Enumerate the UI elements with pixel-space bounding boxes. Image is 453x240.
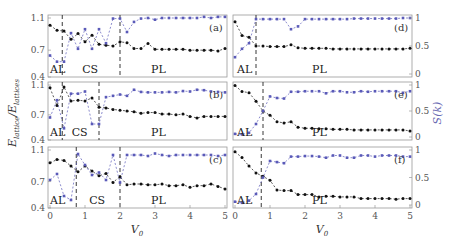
structure-factor-marker <box>168 91 171 94</box>
energy-ratio-marker <box>339 47 342 50</box>
energy-ratio-marker <box>283 189 286 192</box>
structure-factor-marker <box>367 154 370 157</box>
energy-ratio-marker <box>297 46 300 49</box>
energy-ratio-marker <box>283 45 286 48</box>
energy-ratio-marker <box>63 159 66 162</box>
structure-factor-marker <box>70 199 73 202</box>
energy-ratio-marker <box>283 121 286 124</box>
region-label-pl: PL <box>151 63 166 76</box>
energy-ratio-marker <box>161 113 164 116</box>
structure-factor-marker <box>297 25 300 28</box>
energy-ratio-marker <box>388 128 391 131</box>
panel-label: (a) <box>209 22 223 33</box>
energy-ratio-marker <box>276 189 279 192</box>
y-tick-label: 1.1 <box>31 145 45 155</box>
structure-factor-marker <box>84 28 87 31</box>
energy-ratio-marker <box>248 91 251 94</box>
energy-ratio-marker <box>346 47 349 50</box>
structure-factor-marker <box>140 91 143 94</box>
x-tick-label: 0 <box>232 211 238 221</box>
structure-factor-marker <box>234 133 237 136</box>
structure-factor-marker <box>140 17 143 20</box>
left-y-axis-label: Elattice/Elattices <box>6 79 21 148</box>
structure-factor-marker <box>241 48 244 51</box>
energy-ratio-marker <box>332 128 335 131</box>
structure-factor-marker <box>189 17 192 20</box>
structure-factor-marker <box>196 17 199 20</box>
structure-factor-marker <box>374 90 377 93</box>
structure-factor-marker <box>283 97 286 100</box>
structure-factor-marker <box>119 181 122 184</box>
structure-factor-marker <box>311 155 314 158</box>
energy-ratio-marker <box>234 20 237 23</box>
energy-ratio-marker <box>105 172 108 175</box>
energy-ratio-marker <box>353 128 356 131</box>
structure-factor-marker <box>381 90 384 93</box>
energy-ratio-marker <box>210 49 213 52</box>
structure-factor-marker <box>367 90 370 93</box>
region-label-pl: PL <box>312 126 327 139</box>
energy-ratio-marker <box>133 47 136 50</box>
energy-ratio-marker <box>182 113 185 116</box>
structure-factor-marker <box>402 17 405 20</box>
energy-ratio-marker <box>311 47 314 50</box>
energy-ratio-marker <box>304 47 307 50</box>
structure-factor-marker <box>168 155 171 158</box>
energy-ratio-marker <box>353 47 356 50</box>
structure-factor-marker <box>147 91 150 94</box>
panel-label: (b) <box>209 89 223 100</box>
energy-ratio-marker <box>353 195 356 198</box>
energy-ratio-marker <box>304 193 307 196</box>
right-y-tick-label: 0 <box>415 69 421 79</box>
x-tick-label: 4 <box>372 211 378 221</box>
structure-factor-marker <box>297 155 300 158</box>
structure-factor-marker <box>346 18 349 21</box>
y-tick-label: 0.4 <box>31 135 46 145</box>
energy-ratio-marker <box>147 111 150 114</box>
structure-factor-marker <box>98 28 101 31</box>
region-label-cs: CS <box>82 63 98 76</box>
energy-ratio-marker <box>175 184 178 187</box>
energy-ratio-marker <box>290 189 293 192</box>
energy-ratio-marker <box>262 45 265 48</box>
structure-factor-marker <box>234 200 237 203</box>
structure-factor-marker <box>388 154 391 157</box>
structure-factor-marker <box>133 21 136 24</box>
energy-ratio-marker <box>402 197 405 200</box>
structure-factor-marker <box>304 90 307 93</box>
energy-ratio-marker <box>49 161 52 164</box>
energy-ratio-marker <box>290 120 293 123</box>
energy-ratio-marker <box>77 170 80 173</box>
energy-ratio-marker <box>255 45 258 48</box>
energy-ratio-marker <box>395 128 398 131</box>
x-axis-label-left: V0 <box>131 223 144 238</box>
structure-factor-marker <box>119 93 122 96</box>
energy-ratio-marker <box>234 150 237 153</box>
structure-factor-marker <box>161 154 164 157</box>
structure-factor-marker <box>133 154 136 157</box>
panel-label: (e) <box>394 89 408 100</box>
structure-factor-marker <box>290 155 293 158</box>
energy-ratio-marker <box>175 113 178 116</box>
structure-factor-marker <box>70 92 73 95</box>
energy-ratio-marker <box>325 47 328 50</box>
energy-ratio-marker <box>297 126 300 129</box>
panel-d: (d)ALPL10.50 <box>233 13 430 79</box>
energy-ratio-marker <box>98 43 101 46</box>
energy-ratio-marker <box>255 171 258 174</box>
energy-ratio-marker <box>168 184 171 187</box>
panel-f: (f)ALPL10.50012345 <box>232 145 429 221</box>
region-label-al: AL <box>236 63 253 76</box>
structure-factor-marker <box>203 154 206 157</box>
structure-factor-marker <box>304 18 307 21</box>
energy-ratio-marker <box>297 193 300 196</box>
energy-ratio-marker <box>217 185 220 188</box>
structure-factor-marker <box>112 17 115 20</box>
structure-factor-marker <box>168 17 171 20</box>
energy-ratio-marker <box>119 40 122 43</box>
energy-ratio-marker <box>49 86 52 89</box>
energy-ratio-marker <box>112 108 115 111</box>
energy-ratio-marker <box>224 187 227 190</box>
energy-ratio-marker <box>98 106 101 109</box>
structure-factor-line <box>50 90 225 129</box>
